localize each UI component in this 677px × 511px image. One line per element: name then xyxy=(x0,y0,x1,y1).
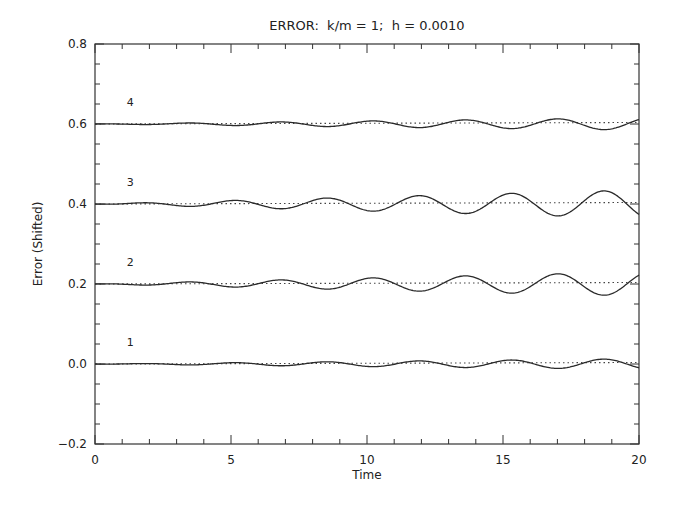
y-axis-label: Error (Shifted) xyxy=(31,202,45,287)
axis-ticks xyxy=(95,44,639,444)
y-tick-label: 0.6 xyxy=(68,117,87,131)
x-tick-label: 15 xyxy=(495,453,510,467)
x-tick-label: 20 xyxy=(631,453,646,467)
series-labels: 1234 xyxy=(127,96,134,349)
x-tick-label: 5 xyxy=(227,453,235,467)
y-tick-label: 0.4 xyxy=(68,197,87,211)
error-chart: ERROR: k/m = 1; h = 0.0010 05101520 −0.2… xyxy=(0,0,677,511)
error-curve-2 xyxy=(95,274,639,295)
y-tick-labels: −0.20.00.20.40.60.8 xyxy=(58,37,87,451)
baseline-1-dotted-line xyxy=(95,363,639,365)
x-tick-label: 10 xyxy=(359,453,374,467)
plot-border xyxy=(95,44,639,444)
y-tick-label: −0.2 xyxy=(58,437,87,451)
series-label-4: 4 xyxy=(127,96,134,109)
baseline-3-dotted-line xyxy=(95,203,639,205)
chart-title: ERROR: k/m = 1; h = 0.0010 xyxy=(269,18,464,33)
series-label-3: 3 xyxy=(127,176,134,189)
y-tick-label: 0.0 xyxy=(68,357,87,371)
y-tick-label: 0.2 xyxy=(68,277,87,291)
reference-lines xyxy=(95,123,639,365)
x-tick-labels: 05101520 xyxy=(91,453,646,467)
series-label-2: 2 xyxy=(127,256,134,269)
error-curves xyxy=(95,119,639,369)
plot-frame xyxy=(95,44,639,444)
x-tick-label: 0 xyxy=(91,453,99,467)
y-tick-label: 0.8 xyxy=(68,37,87,51)
series-label-1: 1 xyxy=(127,336,134,349)
x-axis-label: Time xyxy=(351,468,381,482)
